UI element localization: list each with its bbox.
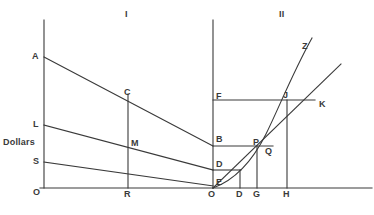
label-point-k: K <box>319 100 326 109</box>
label-point-e: E <box>216 178 222 187</box>
label-point-b: B <box>216 135 223 144</box>
label-point-r: R <box>124 190 131 199</box>
label-curve-z: Z <box>302 42 308 51</box>
label-axis-g: G <box>253 190 260 199</box>
label-point-m: M <box>131 139 139 148</box>
label-origin-right: O <box>208 190 215 199</box>
label-axis-h: H <box>283 190 290 199</box>
label-origin-left: O <box>33 188 40 197</box>
label-point-c: C <box>124 88 131 97</box>
label-point-f: F <box>216 92 222 101</box>
line-k <box>213 64 341 188</box>
curve-z <box>213 38 312 188</box>
economics-diagram: I II O A L S Dollars C M R O F B D E P Q… <box>0 0 374 215</box>
label-point-s: S <box>33 157 39 166</box>
y-axis-label-dollars: Dollars <box>3 138 35 147</box>
diagram-canvas <box>0 0 374 215</box>
panel-1-title: I <box>125 10 128 19</box>
label-point-p: P <box>253 138 259 147</box>
label-point-q: Q <box>265 147 272 156</box>
label-point-d-left: D <box>216 160 223 169</box>
label-axis-d: D <box>236 190 243 199</box>
label-point-l: L <box>33 120 39 129</box>
panel-2-title: II <box>279 10 284 19</box>
label-point-j: J <box>283 91 288 100</box>
label-point-a: A <box>32 52 39 61</box>
